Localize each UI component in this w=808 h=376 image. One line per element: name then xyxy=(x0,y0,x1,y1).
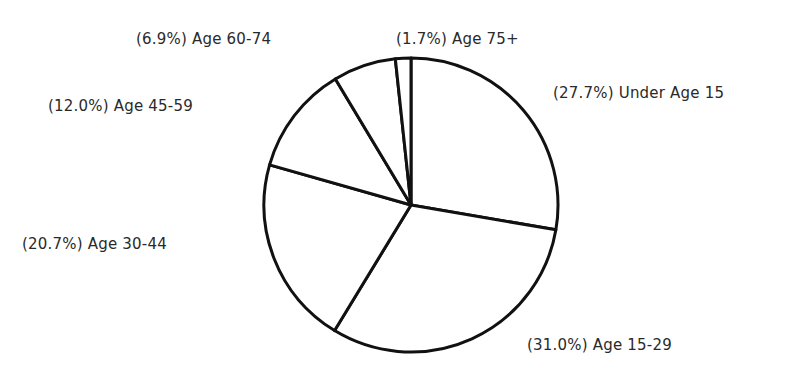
label-age-45-59: (12.0%) Age 45-59 xyxy=(48,97,193,115)
label-age-60-74: (6.9%) Age 60-74 xyxy=(136,30,271,48)
label-age-15-29: (31.0%) Age 15-29 xyxy=(527,336,672,354)
pie-slice xyxy=(411,58,558,230)
label-age-30-44: (20.7%) Age 30-44 xyxy=(22,235,167,253)
pie-chart xyxy=(0,0,808,376)
label-age-75plus: (1.7%) Age 75+ xyxy=(396,30,519,48)
label-under-15: (27.7%) Under Age 15 xyxy=(553,84,724,102)
